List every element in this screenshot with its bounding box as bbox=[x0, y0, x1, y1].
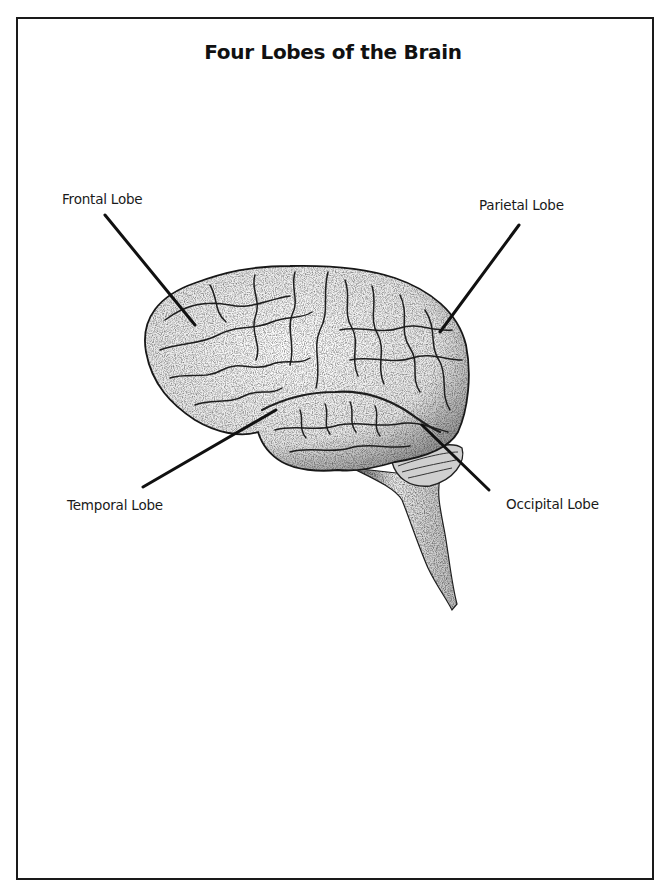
label-occipital-lobe: Occipital Lobe bbox=[506, 496, 599, 512]
label-parietal-lobe: Parietal Lobe bbox=[479, 197, 564, 213]
label-temporal-lobe: Temporal Lobe bbox=[67, 497, 163, 513]
brain-illustration bbox=[0, 0, 666, 887]
frontal-pointer-line bbox=[105, 215, 195, 325]
label-frontal-lobe: Frontal Lobe bbox=[62, 191, 142, 207]
brainstem bbox=[352, 468, 457, 610]
cerebrum bbox=[145, 266, 469, 471]
parietal-pointer-line bbox=[440, 225, 519, 332]
